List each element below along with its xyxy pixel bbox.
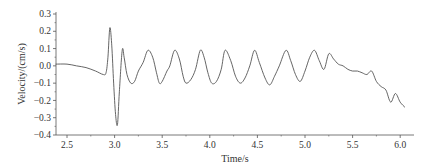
x-tick-label: 6.0: [394, 140, 406, 150]
x-axis: 2.53.03.54.04.55.05.56.0: [56, 135, 414, 150]
x-tick-label: 3.0: [109, 140, 121, 150]
x-axis-title: Time/s: [221, 153, 249, 164]
y-tick-label: 0.1: [39, 44, 51, 54]
x-tick-label: 2.5: [61, 140, 73, 150]
x-tick-label: 4.5: [251, 140, 263, 150]
y-tick-label: −0.2: [34, 96, 51, 106]
velocity-time-chart: 0.30.20.10.0−0.1−0.2−0.3−0.4 2.53.03.54.…: [0, 0, 438, 167]
y-tick-label: 0.2: [39, 26, 51, 36]
y-axis-title: Velocity/(cm/s): [16, 43, 28, 105]
y-axis: 0.30.20.10.0−0.1−0.2−0.3−0.4: [34, 9, 56, 140]
y-tick-label: −0.4: [34, 130, 51, 140]
x-tick-label: 5.5: [347, 140, 359, 150]
x-tick-label: 3.5: [156, 140, 168, 150]
velocity-series-line: [56, 28, 405, 126]
x-tick-label: 4.0: [204, 140, 216, 150]
y-tick-label: −0.3: [34, 113, 51, 123]
y-tick-label: 0.3: [39, 9, 51, 19]
y-tick-label: −0.1: [34, 78, 51, 88]
x-tick-label: 5.0: [299, 140, 311, 150]
y-tick-label: 0.0: [39, 61, 51, 71]
